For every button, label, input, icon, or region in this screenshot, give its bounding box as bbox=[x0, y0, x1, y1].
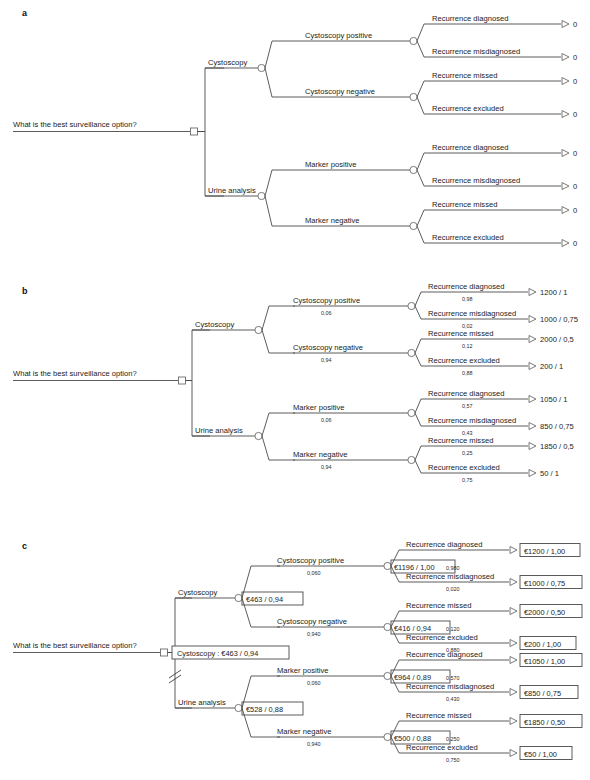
branch-prob-cystoscopy-negative-c: 0,940 bbox=[307, 631, 321, 637]
chance-node-cystoscopy-a bbox=[258, 64, 265, 71]
value-marker-positive-c: €964 / 0,89 bbox=[394, 673, 431, 682]
outcome-label-mp-1-b: Recurrence diagnosed bbox=[428, 389, 504, 398]
outcome-label-mn-2-a: Recurrence excluded bbox=[432, 233, 504, 242]
terminal-marker-mp-1-a bbox=[562, 150, 569, 157]
chance-node-cys-positive-a bbox=[410, 37, 417, 44]
outcome-label-cp-2-b: Recurrence misdiagnosed bbox=[428, 309, 516, 318]
terminal-marker-cp-2-a bbox=[562, 54, 569, 61]
terminal-marker-cp-2-b bbox=[529, 316, 536, 323]
payoff-cp-2-c: €1000 / 0,75 bbox=[524, 579, 565, 588]
outcome-label-cp-1-c: Recurrence diagnosed bbox=[406, 540, 482, 549]
branch-label-marker-negative-c: Marker negative bbox=[277, 727, 331, 736]
terminal-marker-mp-2-c bbox=[510, 689, 517, 696]
edge-mn-o2-a bbox=[417, 226, 432, 243]
strategy-label-urine-c: Urine analysis bbox=[178, 698, 226, 707]
branch-prob-marker-negative-b: 0,94 bbox=[321, 464, 332, 470]
outcome-label-cp-2-c: Recurrence misdiagnosed bbox=[406, 572, 494, 581]
edge-cn-o2-b bbox=[415, 353, 428, 366]
outcome-label-cn-1-b: Recurrence missed bbox=[428, 329, 493, 338]
payoff-cp-1-c: €1200 / 1,00 bbox=[524, 547, 565, 556]
payoff-cp-1-a: 0 bbox=[573, 20, 577, 29]
terminal-marker-cn-1-b bbox=[529, 336, 536, 343]
outcome-label-mn-2-b: Recurrence excluded bbox=[428, 463, 500, 472]
branch-prob-marker-positive-c: 0,060 bbox=[307, 680, 321, 686]
chance-node-cys-positive-c bbox=[384, 562, 391, 569]
payoff-mn-2-c: €50 / 1,00 bbox=[524, 750, 557, 759]
outcome-prob-cn-1-b: 0,12 bbox=[462, 343, 473, 349]
branch-label-marker-positive-a: Marker positive bbox=[305, 160, 356, 169]
strategy-label-urine-a: Urine analysis bbox=[208, 186, 256, 195]
terminal-marker-cp-1-a bbox=[562, 21, 569, 28]
value-marker-negative-c: €500 / 0,88 bbox=[394, 734, 431, 743]
payoff-mp-2-a: 0 bbox=[573, 182, 577, 191]
branch-prob-cystoscopy-negative-b: 0,94 bbox=[321, 357, 332, 363]
root-decision-value-c: Cystoscopy : €463 / 0,94 bbox=[177, 649, 258, 658]
chance-node-cys-positive-b bbox=[408, 302, 415, 309]
terminal-marker-mn-1-b bbox=[529, 443, 536, 450]
edge-mp-o1-b bbox=[415, 399, 428, 413]
root-question-b: What is the best surveillance option? bbox=[13, 369, 137, 378]
outcome-label-mp-1-a: Recurrence diagnosed bbox=[432, 143, 508, 152]
chance-node-marker-negative-c bbox=[384, 733, 391, 740]
outcome-label-cn-1-c: Recurrence missed bbox=[406, 601, 471, 610]
edge-cp-o1-b bbox=[415, 292, 428, 306]
payoff-mn-2-b: 50 / 1 bbox=[540, 469, 559, 478]
branch-label-cystoscopy-positive-a: Cystoscopy positive bbox=[305, 31, 372, 40]
terminal-marker-cn-2-a bbox=[562, 111, 569, 118]
branch-label-cystoscopy-negative-c: Cystoscopy negative bbox=[277, 617, 347, 626]
outcome-label-cn-2-b: Recurrence excluded bbox=[428, 356, 500, 365]
outcome-label-cn-2-a: Recurrence excluded bbox=[432, 104, 504, 113]
edge-marker-positive-a bbox=[265, 170, 305, 196]
value-cys-positive-c: €1196 / 1,00 bbox=[394, 563, 435, 572]
terminal-marker-cn-1-c bbox=[510, 608, 517, 615]
panel-a: a What is the best surveillance option? … bbox=[0, 0, 590, 270]
edge-root-cystoscopy-c bbox=[168, 598, 193, 653]
payoff-cn-2-a: 0 bbox=[573, 110, 577, 119]
outcome-label-mn-1-b: Recurrence missed bbox=[428, 436, 493, 445]
root-decision-node-a bbox=[191, 128, 198, 135]
outcome-prob-mn-1-c: 0,250 bbox=[446, 736, 460, 742]
chance-node-marker-negative-b bbox=[408, 456, 415, 463]
terminal-marker-cp-1-c bbox=[510, 547, 517, 554]
terminal-marker-mp-2-a bbox=[562, 183, 569, 190]
payoff-mn-2-a: 0 bbox=[573, 239, 577, 248]
branch-prob-marker-negative-c: 0,940 bbox=[307, 741, 321, 747]
edge-cn-o2-a bbox=[417, 97, 432, 114]
panel-b: b What is the best surveillance option? … bbox=[0, 270, 590, 520]
chance-node-marker-negative-a bbox=[410, 222, 417, 229]
outcome-label-mp-2-c: Recurrence misdiagnosed bbox=[406, 682, 494, 691]
branch-label-marker-positive-b: Marker positive bbox=[293, 403, 344, 412]
root-question-a: What is the best surveillance option? bbox=[13, 120, 137, 129]
edge-cys-negative-b bbox=[262, 330, 295, 353]
terminal-marker-cn-2-c bbox=[510, 640, 517, 647]
edge-root-cystoscopy-a bbox=[198, 68, 225, 132]
edge-cys-positive-b bbox=[262, 306, 295, 330]
outcome-prob-cp-2-c: 0,020 bbox=[446, 586, 460, 592]
payoff-mn-1-a: 0 bbox=[573, 206, 577, 215]
edge-marker-positive-b bbox=[262, 413, 295, 436]
payoff-cp-2-a: 0 bbox=[573, 53, 577, 62]
payoff-mp-2-c: €850 / 0,75 bbox=[524, 689, 561, 698]
outcome-prob-mp-2-c: 0,430 bbox=[446, 696, 460, 702]
terminal-marker-mp-1-b bbox=[529, 396, 536, 403]
value-cys-negative-c: €416 / 0,94 bbox=[394, 624, 431, 633]
edge-marker-negative-b bbox=[262, 436, 295, 460]
outcome-prob-mn-2-b: 0,75 bbox=[462, 477, 473, 483]
outcome-prob-cp-1-b: 0,98 bbox=[462, 296, 473, 302]
branch-label-cystoscopy-positive-c: Cystoscopy positive bbox=[277, 556, 344, 565]
payoff-cn-2-c: €200 / 1,00 bbox=[524, 640, 561, 649]
payoff-cp-1-b: 1200 / 1 bbox=[540, 288, 567, 297]
branch-prob-cystoscopy-positive-c: 0,060 bbox=[307, 570, 321, 576]
terminal-marker-mp-2-b bbox=[529, 423, 536, 430]
outcome-label-cn-1-a: Recurrence missed bbox=[432, 71, 497, 80]
edge-mn-o1-b bbox=[415, 446, 428, 460]
decision-tree-b: What is the best surveillance option? Cy… bbox=[0, 270, 590, 520]
terminal-marker-cp-1-b bbox=[529, 289, 536, 296]
outcome-label-cp-1-b: Recurrence diagnosed bbox=[428, 282, 504, 291]
terminal-marker-mn-2-c bbox=[510, 750, 517, 757]
terminal-marker-cp-2-c bbox=[510, 579, 517, 586]
terminal-marker-mn-2-b bbox=[529, 470, 536, 477]
outcome-prob-mn-2-c: 0,750 bbox=[446, 757, 460, 763]
chance-node-marker-positive-b bbox=[408, 409, 415, 416]
branch-prob-marker-positive-b: 0,06 bbox=[321, 417, 332, 423]
